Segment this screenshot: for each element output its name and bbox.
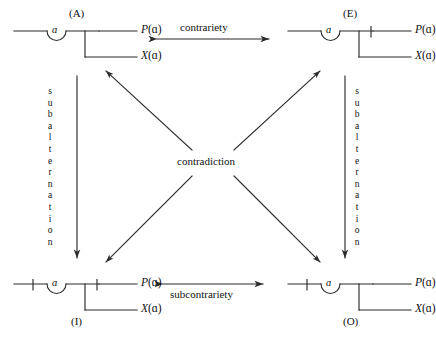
relation-label-subcontrariety: subcontrariety [170, 288, 233, 300]
mood-label-A: (A) [69, 7, 84, 19]
mood-label-O: (O) [343, 315, 358, 327]
predicate-upper-E: P(ɑ) [415, 23, 436, 35]
predicate-arg-glyph: (ɑ) [422, 49, 436, 61]
subalternation-letter: l [44, 132, 56, 144]
subalternation-letter: n [44, 237, 56, 249]
predicate-arg-glyph: (ɑ) [422, 302, 436, 314]
subalternation-letter: a [44, 190, 56, 202]
predicate-fn-glyph: X [415, 302, 422, 314]
predicate-upper-A: P(ɑ) [141, 23, 162, 35]
predicate-upper-I: P(ɑ) [141, 276, 162, 288]
arrow-contradiction-lower-left [106, 176, 192, 262]
predicate-lower-A: X(ɑ) [141, 49, 162, 61]
subalternation-letter: o [44, 225, 56, 237]
relation-label-subalternation-left: subalternation [44, 86, 56, 248]
subalternation-letter: t [351, 202, 363, 214]
subalternation-letter: o [351, 225, 363, 237]
predicate-upper-O: P(ɑ) [415, 276, 436, 288]
predicate-fn-glyph: P [141, 23, 148, 35]
subalternation-letter: s [44, 86, 56, 98]
arrow-contradiction-upper-left [106, 71, 192, 150]
relation-label-contradiction: contradiction [177, 155, 235, 167]
arrow-contradiction-lower-right [234, 176, 320, 262]
predicate-arg-glyph: (ɑ) [148, 49, 162, 61]
predicate-arg-glyph: (ɑ) [422, 23, 436, 35]
subalternation-letter: r [351, 167, 363, 179]
subalternation-letter: i [44, 214, 56, 226]
formula-tree-E [288, 27, 411, 58]
subalternation-letter: s [351, 86, 363, 98]
subalternation-letter: r [44, 167, 56, 179]
alpha-symbol-I: ɑ [52, 277, 57, 288]
subalternation-letter: b [44, 109, 56, 121]
predicate-fn-glyph: X [415, 49, 422, 61]
mood-label-I: (I) [71, 315, 82, 327]
subalternation-letter: e [44, 156, 56, 168]
relation-label-subalternation-right: subalternation [351, 86, 363, 248]
subalternation-letter: a [351, 190, 363, 202]
subalternation-letter: i [351, 214, 363, 226]
predicate-lower-E: X(ɑ) [415, 49, 436, 61]
subalternation-letter: l [351, 132, 363, 144]
formula-tree-I [14, 280, 137, 311]
subalternation-letter: t [44, 144, 56, 156]
predicate-arg-glyph: (ɑ) [148, 276, 162, 288]
subalternation-letter: a [44, 121, 56, 133]
predicate-arg-glyph: (ɑ) [422, 276, 436, 288]
predicate-lower-I: X(ɑ) [141, 302, 162, 314]
subalternation-letter: a [351, 121, 363, 133]
subalternation-letter: t [351, 144, 363, 156]
subalternation-letter: u [351, 98, 363, 110]
relation-label-contrariety: contrariety [180, 21, 228, 33]
subalternation-letter: n [351, 237, 363, 249]
subalternation-letter: t [44, 202, 56, 214]
subalternation-letter: e [351, 156, 363, 168]
predicate-arg-glyph: (ɑ) [148, 23, 162, 35]
arrow-contradiction-upper-right [234, 71, 320, 150]
alpha-symbol-O: ɑ [326, 277, 331, 288]
predicate-fn-glyph: P [415, 276, 422, 288]
predicate-fn-glyph: X [141, 302, 148, 314]
subalternation-letter: u [44, 98, 56, 110]
predicate-fn-glyph: X [141, 49, 148, 61]
alpha-symbol-A: ɑ [52, 24, 57, 35]
subalternation-letter: n [44, 179, 56, 191]
predicate-lower-O: X(ɑ) [415, 302, 436, 314]
formula-tree-O [288, 280, 411, 311]
subalternation-letter: b [351, 109, 363, 121]
predicate-fn-glyph: P [415, 23, 422, 35]
subalternation-letter: n [351, 179, 363, 191]
formula-tree-A [14, 31, 137, 57]
alpha-symbol-E: ɑ [326, 24, 331, 35]
predicate-fn-glyph: P [141, 276, 148, 288]
predicate-arg-glyph: (ɑ) [148, 302, 162, 314]
mood-label-E: (E) [343, 7, 357, 19]
